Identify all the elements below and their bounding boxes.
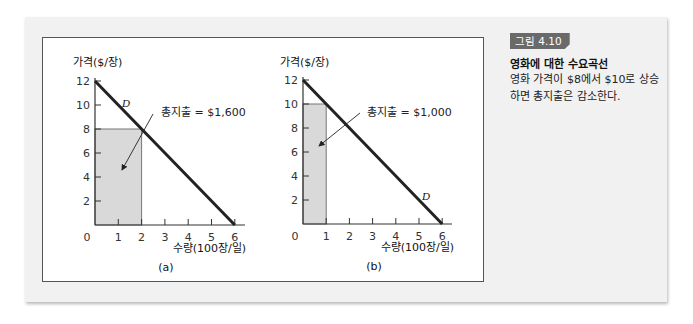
y-axis-title-b: 가격($/장) (280, 56, 329, 69)
caption-title: 영화에 대한 수요곡선 (510, 55, 608, 71)
y-tick-a: 2 (83, 195, 90, 208)
panel-label-b: (b) (366, 260, 382, 273)
y-tick-b: 8 (291, 122, 298, 135)
annotation-b: 총지출 = $1,000 (367, 106, 452, 119)
y-axis-title-a: 가격($/장) (73, 56, 122, 69)
y-tick-b: 4 (291, 170, 298, 183)
y-tick-a: 8 (83, 123, 90, 136)
y-tick-b: 12 (284, 74, 298, 87)
caption-body: 영화 가격이 $8에서 $10로 상승하면 총지출은 감소한다. (510, 71, 660, 105)
total-expenditure-area-a (95, 129, 142, 225)
x-tick-b: 2 (346, 230, 353, 243)
x-tick-b: 1 (323, 230, 330, 243)
y-tick-a: 12 (76, 75, 90, 88)
y-tick-b: 10 (284, 98, 298, 111)
x-tick-b: 0 (292, 230, 299, 243)
y-tick-a: 10 (76, 99, 90, 112)
x-tick-a: 3 (161, 231, 168, 244)
x-tick-a: 1 (115, 231, 122, 244)
chart-b: D 총지출 = $1,000 12 10 8 6 4 2 0 1 2 3 4 5… (280, 56, 454, 273)
total-expenditure-area-b (303, 104, 326, 224)
demand-charts: D 총지출 = $1,600 12 10 8 6 4 2 0 1 2 3 4 5… (0, 0, 693, 324)
figure-number-badge: 그림 4.10 (510, 33, 570, 49)
y-tick-b: 6 (291, 146, 298, 159)
y-tick-a: 6 (83, 147, 90, 160)
curve-label-a: D (121, 97, 130, 109)
x-tick-a: 0 (84, 231, 91, 244)
curve-label-b: D (421, 190, 430, 202)
x-tick-a: 2 (138, 231, 145, 244)
annotation-a: 총지출 = $1,600 (161, 106, 246, 119)
chart-a: D 총지출 = $1,600 12 10 8 6 4 2 0 1 2 3 4 5… (73, 56, 246, 274)
y-tick-b: 2 (291, 194, 298, 207)
x-tick-b: 3 (369, 230, 376, 243)
x-axis-title-a: 수량(100장/일) (173, 241, 246, 255)
x-axis-title-b: 수량(100장/일) (381, 240, 454, 254)
y-tick-a: 4 (83, 171, 90, 184)
panel-label-a: (a) (158, 261, 173, 274)
